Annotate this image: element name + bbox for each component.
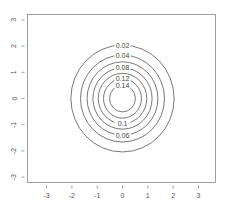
contour-plot: -3-2-10123 -3-2-10123 0.020.040.060.080.… <box>0 0 230 215</box>
plot-frame <box>28 15 216 183</box>
x-tick-label: 1 <box>146 192 150 199</box>
x-tick-label: -3 <box>43 192 49 199</box>
y-tick-label: 3 <box>11 18 18 22</box>
contour-label: 0.04 <box>116 52 130 59</box>
contour-label: 0.14 <box>116 82 130 89</box>
y-axis: -3-2-10123 <box>11 18 25 180</box>
x-tick-label: 2 <box>171 192 175 199</box>
y-tick-label: -2 <box>11 148 18 154</box>
x-tick-label: 3 <box>196 192 200 199</box>
contour-label: 0.02 <box>116 42 130 49</box>
contour-label: 0.1 <box>118 120 128 127</box>
x-tick-label: -2 <box>69 192 75 199</box>
y-tick-label: 0 <box>11 96 18 100</box>
x-tick-label: 0 <box>121 192 125 199</box>
y-tick-label: -1 <box>11 121 18 127</box>
y-tick-label: -3 <box>11 174 18 180</box>
contour-label: 0.08 <box>116 64 130 71</box>
contour-line <box>110 85 136 112</box>
x-tick-label: -1 <box>94 192 100 199</box>
y-tick-label: 1 <box>11 70 18 74</box>
contour-lines: 0.020.040.060.080.10.120.14 <box>71 42 174 152</box>
contour-label: 0.06 <box>116 132 130 139</box>
y-tick-label: 2 <box>11 44 18 48</box>
x-axis: -3-2-10123 <box>43 186 200 199</box>
